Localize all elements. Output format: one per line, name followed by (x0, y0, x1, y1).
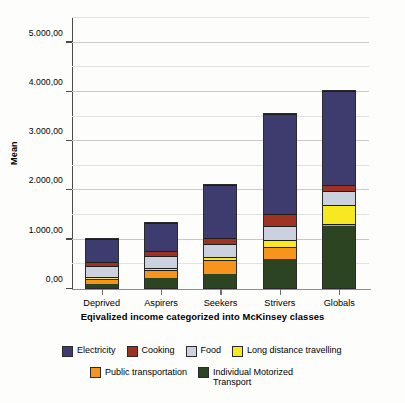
bar-segment[interactable] (323, 226, 355, 288)
chart-page: Mean 0,001.000,002.000,003.000,004.000,0… (0, 0, 405, 403)
bar-segment[interactable] (145, 223, 177, 252)
bar-segment[interactable] (204, 244, 236, 257)
legend-item-label: Electricity (77, 345, 116, 356)
x-axis-category-label: Deprived (83, 298, 120, 308)
bar-group[interactable]: Aspirers (131, 18, 190, 289)
bar-segment[interactable] (86, 284, 118, 288)
bar-segment[interactable] (204, 274, 236, 288)
legend-swatch-icon (90, 367, 101, 378)
legend-item-label: Long distance travelling (247, 345, 342, 356)
x-axis-tick (220, 289, 221, 295)
legend-swatch-icon (127, 346, 138, 357)
legend-swatch-icon (62, 346, 73, 357)
bar-segment[interactable] (204, 260, 236, 274)
bar-segment[interactable] (86, 266, 118, 277)
legend-swatch-icon (186, 346, 197, 357)
bar-segment[interactable] (145, 270, 177, 278)
legend-item[interactable]: Cooking (127, 345, 175, 357)
bar-group[interactable]: Strivers (250, 18, 309, 289)
bar-segment[interactable] (264, 226, 296, 241)
bar-segment[interactable] (323, 191, 355, 204)
bar-segment[interactable] (264, 214, 296, 226)
legend-item-label: Individual Motorized Transport (213, 367, 293, 388)
legend-swatch-icon (232, 346, 243, 357)
bar-segment[interactable] (145, 278, 177, 288)
x-axis-tick (280, 289, 281, 295)
x-axis-tick (339, 289, 340, 295)
x-axis-tick (102, 289, 103, 295)
legend-swatch-icon (198, 367, 209, 378)
legend-item[interactable]: Food (186, 345, 222, 357)
x-axis-category-label: Aspirers (144, 298, 178, 308)
legend-item[interactable]: Individual Motorized Transport (198, 367, 293, 388)
legend-row-primary: ElectricityCookingFoodLong distance trav… (62, 345, 392, 357)
chart-legend: ElectricityCookingFoodLong distance trav… (62, 345, 392, 398)
bar-segment[interactable] (264, 247, 296, 259)
bar-segment[interactable] (323, 91, 355, 185)
stacked-bar[interactable] (85, 238, 119, 289)
bar-segment[interactable] (86, 239, 118, 262)
x-axis-title: Eqivalized income categorized into McKin… (0, 311, 405, 322)
x-axis-category-label: Strivers (264, 298, 295, 308)
legend-item-label: Food (201, 345, 222, 356)
legend-item-label: Cooking (142, 345, 175, 356)
legend-item[interactable]: Public transportation (90, 367, 187, 379)
y-axis-title: Mean (9, 141, 19, 165)
y-axis-tick-label: 5.000,00 (29, 28, 63, 38)
bar-group[interactable]: Seekers (191, 18, 250, 289)
y-axis-tick-label: 0,00 (46, 274, 63, 284)
bar-segment[interactable] (323, 205, 355, 225)
bar-segment[interactable] (264, 259, 296, 288)
stacked-bar[interactable] (263, 113, 297, 289)
stacked-bar[interactable] (322, 90, 356, 289)
stacked-bar[interactable] (144, 222, 178, 290)
bar-segment[interactable] (264, 114, 296, 214)
bar-group[interactable]: Deprived (72, 18, 131, 289)
bar-segment[interactable] (145, 256, 177, 267)
x-axis-category-label: Globals (324, 298, 355, 308)
legend-item[interactable]: Long distance travelling (232, 345, 342, 357)
legend-item-label: Public transportation (105, 367, 187, 378)
bar-segment[interactable] (204, 185, 236, 238)
x-axis-category-label: Seekers (204, 298, 238, 308)
stacked-bar[interactable] (203, 184, 237, 289)
plot-area: 0,001.000,002.000,003.000,004.000,005.00… (72, 18, 369, 289)
legend-item[interactable]: Electricity (62, 345, 116, 357)
y-axis-tick-label: 3.000,00 (29, 126, 63, 136)
y-axis-tick-label: 1.000,00 (29, 225, 63, 235)
y-axis-tick-label: 4.000,00 (29, 77, 63, 87)
legend-row-secondary: Public transportationIndividual Motorize… (62, 367, 392, 388)
x-axis-tick (161, 289, 162, 295)
bar-group[interactable]: Globals (310, 18, 369, 289)
y-axis-tick-label: 2.000,00 (29, 175, 63, 185)
